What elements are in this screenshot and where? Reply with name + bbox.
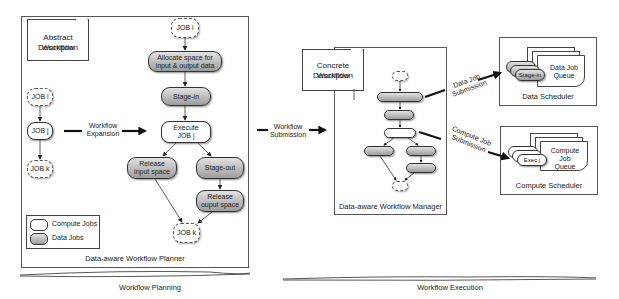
connector-arrows	[0, 0, 619, 299]
